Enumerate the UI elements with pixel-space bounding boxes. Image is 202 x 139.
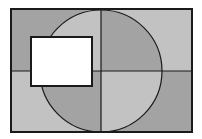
white-rectangle bbox=[31, 37, 92, 86]
geometric-diagram bbox=[0, 0, 202, 139]
